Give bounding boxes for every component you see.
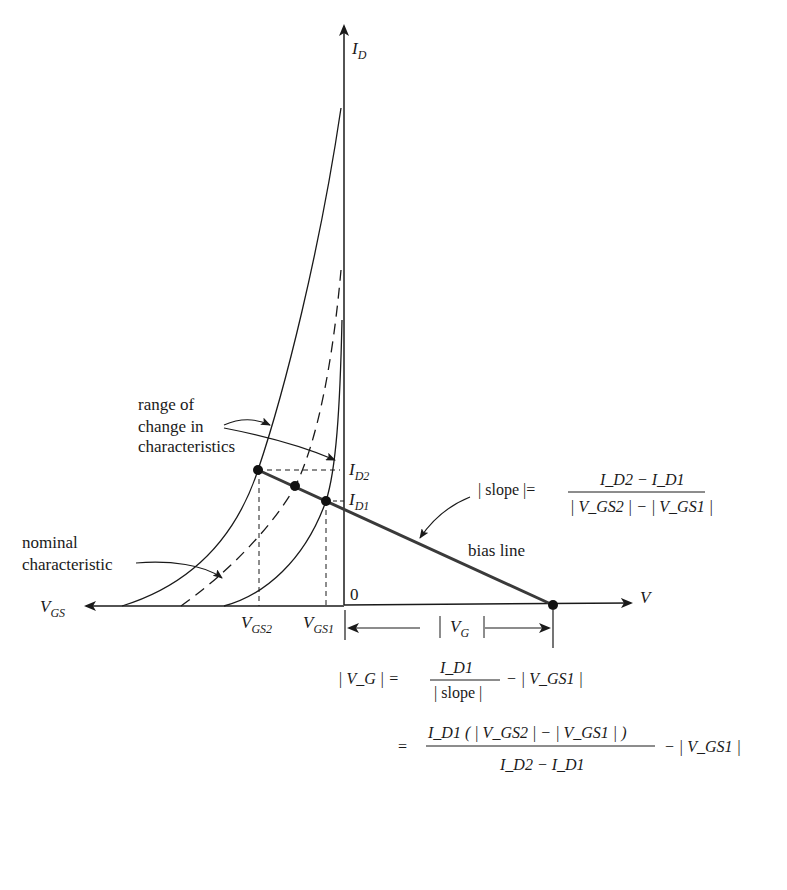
operating-point-max xyxy=(253,465,263,475)
bias-line-label: bias line xyxy=(468,541,525,560)
nominal-arrow-icon xyxy=(136,562,222,578)
vgs-axis-label: VGS xyxy=(40,597,65,620)
v-axis-right xyxy=(344,603,631,605)
vgs1-label: VGS1 xyxy=(303,613,334,636)
min-characteristic-curve xyxy=(224,320,342,606)
svg-text:| V_G | =: | V_G | = xyxy=(338,670,399,688)
range-arrow-lower-icon xyxy=(224,428,335,460)
nominal-annotation-line1: nominal xyxy=(22,533,78,552)
vg-point xyxy=(548,600,558,610)
origin-label: 0 xyxy=(350,585,359,604)
svg-text:I_D1 ( | V_GS2 | − | V_GS1 | ): I_D1 ( | V_GS2 | − | V_GS1 | ) xyxy=(427,724,627,742)
range-annotation-line3: characteristics xyxy=(138,437,235,456)
vgs2-label: VGS2 xyxy=(241,613,272,636)
max-characteristic-curve xyxy=(122,108,341,606)
slope-equation: | slope |= I_D2 − I_D1 | V_GS2 | − | V_G… xyxy=(478,471,713,516)
operating-point-min xyxy=(321,496,331,506)
svg-text:I_D2 − I_D1: I_D2 − I_D1 xyxy=(599,471,685,488)
jfet-bias-diagram: ID VGS V 0 ID2 ID1 VGS2 VGS1 VG range of… xyxy=(0,0,787,890)
range-arrow-upper-icon xyxy=(224,420,270,425)
range-annotation-line2: change in xyxy=(138,417,204,436)
vg-label: VG xyxy=(450,617,469,640)
svg-text:| V_GS2 | − | V_GS1 |: | V_GS2 | − | V_GS1 | xyxy=(570,498,713,516)
svg-text:| slope |=: | slope |= xyxy=(478,481,535,499)
range-annotation-line1: range of xyxy=(138,395,195,414)
svg-text:=: = xyxy=(398,738,407,755)
v-axis-label: V xyxy=(640,588,653,607)
slope-arrow-icon xyxy=(420,497,470,538)
id-axis-label: ID xyxy=(351,39,367,62)
svg-text:I_D2 − I_D1: I_D2 − I_D1 xyxy=(499,756,585,773)
svg-text:− | V_GS1 |: − | V_GS1 | xyxy=(664,738,741,756)
svg-text:I_D1: I_D1 xyxy=(439,659,473,676)
nominal-annotation-line2: characteristic xyxy=(22,555,113,574)
diagram-canvas: ID VGS V 0 ID2 ID1 VGS2 VGS1 VG range of… xyxy=(0,0,787,890)
operating-point-nominal xyxy=(290,481,300,491)
vg-equation: | V_G | = I_D1 | slope | − | V_GS1 | = I… xyxy=(338,659,741,773)
svg-text:| slope |: | slope | xyxy=(434,684,482,702)
id2-label: ID2 xyxy=(348,460,369,483)
svg-text:− | V_GS1 |: − | V_GS1 | xyxy=(506,670,583,688)
id1-label: ID1 xyxy=(348,490,369,513)
